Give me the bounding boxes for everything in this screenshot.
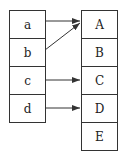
mapping-arrows	[0, 0, 125, 158]
arrow-b-to-A	[45, 23, 80, 50]
